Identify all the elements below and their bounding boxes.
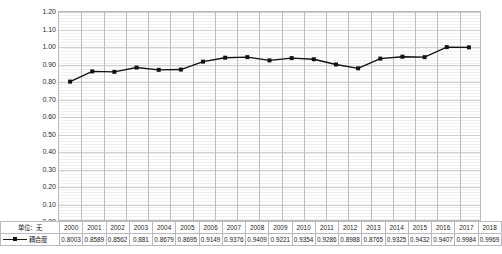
table-year-cell: 2001	[83, 222, 106, 234]
table-value-cell: 0.9149	[199, 234, 222, 246]
table-value-cell: 0.9221	[269, 234, 292, 246]
data-point-marker	[268, 58, 272, 62]
data-point-marker	[400, 55, 404, 59]
table-value-cell: 0.9969	[478, 234, 501, 246]
unit-label-cell: 单位：无	[1, 222, 60, 234]
data-point-marker	[135, 66, 139, 70]
data-point-marker	[423, 55, 427, 59]
table-year-cell: 2013	[362, 222, 385, 234]
y-axis-tick-label: 0.90	[2, 60, 56, 67]
data-table: 单位：无 20002001200220032004200520062007200…	[0, 221, 502, 246]
plot-area	[58, 11, 481, 221]
data-point-marker	[467, 45, 471, 49]
table-year-cell: 2003	[129, 222, 152, 234]
y-axis-tick-label: 1.00	[2, 43, 56, 50]
table-value-cell: 0.8562	[106, 234, 129, 246]
table-year-cell: 2008	[246, 222, 269, 234]
data-point-marker	[223, 56, 227, 60]
data-point-marker	[445, 45, 449, 49]
table-year-cell: 2006	[199, 222, 222, 234]
series-layer	[59, 12, 480, 221]
y-axis-tick-label: 0.10	[2, 200, 56, 207]
data-point-marker	[334, 62, 338, 66]
data-point-marker	[68, 80, 72, 84]
legend-line-marker-icon	[3, 235, 27, 244]
table-year-cell: 2009	[269, 222, 292, 234]
data-point-marker	[312, 57, 316, 61]
table-value-cell: 0.8695	[176, 234, 199, 246]
table-value-cell: 0.9354	[292, 234, 315, 246]
table-year-cell: 2000	[60, 222, 83, 234]
table-value-cell: 0.9376	[222, 234, 245, 246]
table-value-cell: 0.9286	[315, 234, 338, 246]
table-year-cell: 2015	[408, 222, 431, 234]
table-year-cell: 2004	[153, 222, 176, 234]
legend-cell: 耦合度	[1, 234, 60, 246]
y-axis: 1.201.101.000.900.800.700.600.500.400.30…	[0, 11, 56, 221]
table-value-cell: 0.9407	[432, 234, 455, 246]
table-year-cell: 2011	[315, 222, 338, 234]
table-value-cell: 0.881	[129, 234, 152, 246]
y-axis-tick-label: 0.80	[2, 78, 56, 85]
table-year-cell: 2002	[106, 222, 129, 234]
table-year-cell: 2005	[176, 222, 199, 234]
table-value-cell: 0.8765	[362, 234, 385, 246]
table-row-values: 耦合度 0.80030.85890.85620.8810.86790.86950…	[1, 234, 502, 246]
table-year-cell: 2017	[455, 222, 478, 234]
data-point-marker	[112, 70, 116, 74]
table-value-cell: 0.8679	[153, 234, 176, 246]
series-line	[70, 47, 469, 82]
data-point-marker	[90, 69, 94, 73]
data-point-marker	[356, 66, 360, 70]
table-value-cell: 0.9432	[408, 234, 431, 246]
y-axis-tick-label: 1.10	[2, 25, 56, 32]
legend-series-label: 耦合度	[29, 234, 47, 245]
data-point-marker	[201, 60, 205, 64]
y-axis-tick-label: 0.40	[2, 148, 56, 155]
table-value-cell: 0.8988	[339, 234, 362, 246]
table-year-cell: 2012	[339, 222, 362, 234]
data-point-marker	[290, 56, 294, 60]
table-value-cell: 0.9325	[385, 234, 408, 246]
table-year-cell: 2007	[222, 222, 245, 234]
table-value-cell: 0.8589	[83, 234, 106, 246]
table-year-cell: 2018	[478, 222, 501, 234]
data-point-marker	[245, 55, 249, 59]
plot-wrapper	[58, 11, 481, 221]
data-point-marker	[157, 68, 161, 72]
y-axis-tick-label: 0.70	[2, 95, 56, 102]
table-year-cell: 2014	[385, 222, 408, 234]
table-value-cell: 0.9409	[246, 234, 269, 246]
table-value-cell: 0.9984	[455, 234, 478, 246]
y-axis-tick-label: 0.60	[2, 113, 56, 120]
data-point-marker	[378, 57, 382, 61]
table-year-cell: 2010	[292, 222, 315, 234]
y-axis-tick-label: 1.20	[2, 8, 56, 15]
y-axis-tick-label: 0.20	[2, 183, 56, 190]
y-axis-tick-label: 0.50	[2, 130, 56, 137]
table-value-cell: 0.8003	[60, 234, 83, 246]
y-axis-tick-label: 0.30	[2, 165, 56, 172]
table-row-years: 单位：无 20002001200220032004200520062007200…	[1, 222, 502, 234]
data-point-marker	[179, 68, 183, 72]
table-year-cell: 2016	[432, 222, 455, 234]
